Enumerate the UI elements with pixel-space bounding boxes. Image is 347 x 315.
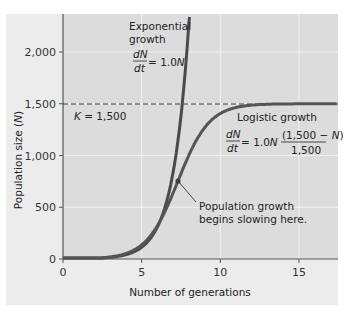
exponential-label-line2: growth bbox=[129, 33, 166, 45]
pointer-label-line1: Population growth bbox=[199, 200, 294, 212]
pointer-label-line2: begins slowing here. bbox=[199, 213, 307, 225]
svg-text:dt: dt bbox=[227, 142, 239, 154]
svg-text:dt: dt bbox=[134, 62, 146, 74]
exponential-label-line1: Exponential bbox=[129, 20, 191, 32]
y-axis-label: Population size (N) bbox=[12, 111, 24, 209]
y-tick-label: 1,000 bbox=[25, 150, 57, 163]
x-tick-label: 15 bbox=[292, 266, 306, 279]
y-tick-label: 1,500 bbox=[25, 98, 57, 111]
svg-text:(1,500 − N): (1,500 − N) bbox=[282, 129, 344, 141]
svg-text:= 1.0N: = 1.0N bbox=[241, 136, 278, 148]
x-tick-label: 5 bbox=[138, 266, 145, 279]
k-label: K = 1,500 bbox=[74, 110, 126, 122]
y-tick-label: 500 bbox=[35, 201, 56, 214]
svg-text:1,500: 1,500 bbox=[291, 144, 321, 156]
svg-text:= 1.0N: = 1.0N bbox=[148, 56, 185, 68]
y-tick-label: 0 bbox=[49, 253, 56, 266]
x-axis-label: Number of generations bbox=[129, 286, 251, 298]
logistic-label: Logistic growth bbox=[237, 111, 317, 123]
svg-text:dN: dN bbox=[133, 48, 148, 60]
population-growth-chart: 05001,0001,5002,000 051015 K = 1,500 Exp… bbox=[0, 0, 347, 315]
x-tick-label: 0 bbox=[60, 266, 67, 279]
x-tick-label: 10 bbox=[213, 266, 227, 279]
svg-text:dN: dN bbox=[226, 128, 241, 140]
y-tick-label: 2,000 bbox=[25, 46, 57, 59]
